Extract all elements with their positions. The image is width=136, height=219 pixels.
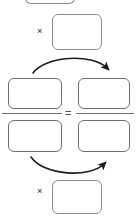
- multiply-icon-top: ×: [37, 27, 42, 36]
- numerator-left-box[interactable]: [8, 78, 62, 109]
- fraction-bar-right: [76, 113, 134, 114]
- denominator-right-box[interactable]: [78, 120, 130, 152]
- fraction-bar-left: [2, 113, 62, 114]
- equals-sign: =: [65, 108, 71, 119]
- bottom-cross-arrow: [31, 157, 104, 173]
- top-cross-arrow: [33, 58, 107, 73]
- top-multiplier-box[interactable]: [52, 14, 102, 50]
- top-partial-box[interactable]: [25, 0, 75, 4]
- numerator-right-box[interactable]: [78, 78, 130, 109]
- denominator-left-box[interactable]: [8, 120, 62, 152]
- cross-multiplication-diagram: × = ×: [0, 0, 136, 219]
- bottom-multiplier-box[interactable]: [52, 180, 102, 214]
- multiply-icon-bottom: ×: [37, 187, 42, 196]
